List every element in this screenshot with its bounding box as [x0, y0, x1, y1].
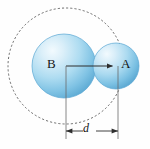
dimension-arrowhead-right	[112, 128, 118, 133]
sphere-b-label: B	[47, 57, 56, 70]
dimension-arrowhead-left	[66, 128, 72, 133]
physics-figure: B A d	[0, 0, 150, 149]
distance-label: d	[83, 122, 89, 134]
figure-canvas	[0, 0, 150, 149]
sphere-a-label: A	[121, 57, 130, 70]
